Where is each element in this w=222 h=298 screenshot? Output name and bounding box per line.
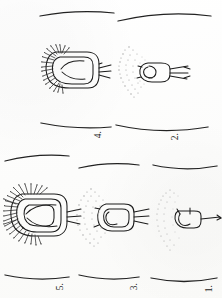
scale-bar-bottom-a <box>4 272 70 284</box>
panel-label-3: 3. <box>130 283 140 290</box>
panel-label-4: 4. <box>94 131 104 138</box>
stipple-arc <box>118 46 145 97</box>
scale-bar-row2-c <box>152 162 218 174</box>
scale-bar-top-left <box>39 8 115 20</box>
panel-5-drawing <box>2 178 82 254</box>
panel-1-drawing <box>144 184 222 258</box>
panel-label-5: 5. <box>56 283 66 290</box>
panel-label-2: 2. <box>171 133 181 140</box>
stipple-arc <box>156 189 179 250</box>
panel-3-drawing <box>72 182 150 254</box>
panel-2-drawing <box>112 36 196 108</box>
scale-bar-row2-a <box>4 152 70 164</box>
panel-label-1: 1. <box>205 285 215 292</box>
figure-plate: 4. 2. 5. 3. 1. <box>0 0 222 298</box>
scale-bar-bottom-c <box>150 274 218 286</box>
panel-4-drawing <box>40 38 112 100</box>
scale-bar-bottom-b <box>78 272 140 284</box>
scale-bar-mid-left <box>40 120 112 132</box>
stipple-arc <box>76 188 105 246</box>
scale-bar-mid-right <box>115 122 209 136</box>
scale-bar-row2-b <box>78 160 140 172</box>
scale-bar-top-right <box>117 10 212 24</box>
